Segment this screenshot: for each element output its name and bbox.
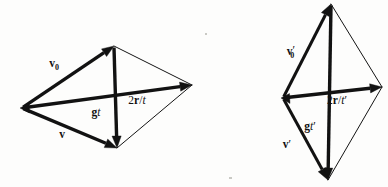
right-v-prime-label: v′ [283,138,291,150]
left-v-vector [23,109,117,148]
left-gt-label: gt [92,106,102,119]
right-apex-to-right-edge [331,4,382,87]
right-v0-prime-label: v′0 [287,44,295,60]
right-gt-prime-shaft [328,6,331,169]
left-gt-vector [112,48,121,149]
left-apex-to-right-edge [114,46,192,85]
right-diagram-group: v′0 v′ gt′ 2r/t′ [281,4,382,180]
left-v0-label: v0 [49,57,59,72]
right-v-prime-shaft [284,99,323,169]
scan-speck [229,177,232,179]
right-2r-over-t-prime-label: 2r/t′ [327,94,347,106]
vector-figure-canvas: v0 v gt 2r/t [0,0,388,187]
left-diagram-group: v0 v gt 2r/t [20,46,192,148]
right-2r-over-t-prime-arrowhead [370,84,382,93]
left-2r-over-t-vector [24,82,193,108]
left-2r-over-t-label: 2r/t [128,94,146,106]
left-v-label: v [59,128,65,140]
vector-diagram-figure: v0 v gt 2r/t [0,0,388,187]
scan-speck [205,33,207,35]
right-gt-prime-label: gt′ [304,120,315,133]
left-gt-shaft [114,48,117,137]
